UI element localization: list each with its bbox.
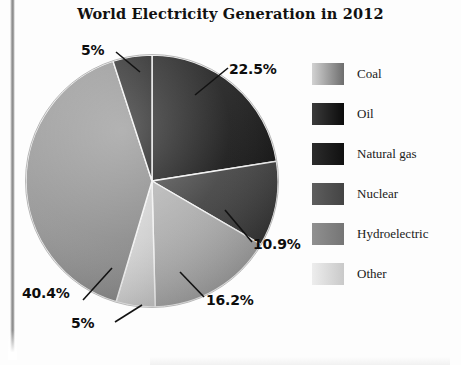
legend-item-label: Natural gas (357, 146, 417, 162)
legend-item-label: Nuclear (357, 186, 398, 202)
legend-item-label: Hydroelectric (357, 226, 428, 242)
legend-swatch-icon (312, 63, 344, 85)
legend-item-oil: Oil (312, 102, 458, 125)
slice-label-nuclear: 16.2% (206, 292, 254, 308)
slice-label-hydroelectric: 5% (71, 315, 94, 331)
legend-item-label: Coal (357, 66, 382, 82)
chart-page: World Electricity Generation in 2012 (0, 0, 461, 365)
slice-label-oil: 22.5% (229, 61, 277, 77)
pie-chart-svg (25, 54, 279, 308)
pie-chart (25, 54, 279, 308)
legend-swatch-icon (312, 263, 344, 285)
pie-slice-group (26, 55, 278, 307)
legend-item-nuclear: Nuclear (312, 182, 458, 205)
legend-item-coal: Coal (312, 62, 458, 85)
legend-item-natural-gas: Natural gas (312, 142, 458, 165)
slice-label-other: 5% (81, 42, 104, 58)
slice-label-coal: 40.4% (22, 285, 70, 301)
legend-item-hydroelectric: Hydroelectric (312, 222, 458, 245)
legend: CoalOilNatural gasNuclearHydroelectricOt… (312, 62, 458, 302)
legend-swatch-icon (312, 103, 344, 125)
legend-swatch-icon (312, 223, 344, 245)
legend-item-label: Other (357, 266, 387, 282)
slice-label-natural-gas: 10.9% (253, 236, 301, 252)
scan-bottom-smudge (150, 357, 450, 365)
legend-item-other: Other (312, 262, 458, 285)
legend-item-label: Oil (357, 106, 374, 122)
legend-swatch-icon (312, 183, 344, 205)
scan-gutter-artifact (10, 0, 15, 356)
legend-swatch-icon (312, 143, 344, 165)
scan-gutter-fade (8, 330, 17, 360)
page-title: World Electricity Generation in 2012 (0, 5, 461, 22)
